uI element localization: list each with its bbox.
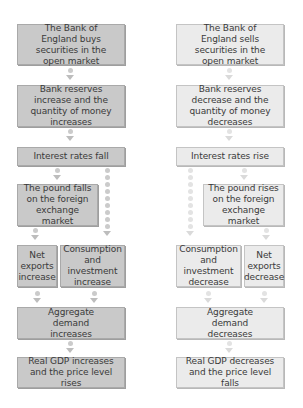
arrow-down-icon [240, 168, 248, 180]
box-consumption-investment-increase: Consumption and investment increase [60, 245, 125, 287]
arrow-down-icon [31, 228, 39, 240]
box-label: Interest rates rise [191, 151, 269, 162]
box-buy-securities: The Bank of England buys securities in t… [17, 24, 125, 65]
box-label: Net exports decrease [243, 250, 285, 283]
box-reserves-increase: Bank reserves increase and the quantity … [17, 85, 125, 127]
arrow-down-icon [90, 291, 98, 303]
arrow-down-icon [66, 341, 74, 353]
dotted-connector-icon [103, 168, 111, 236]
box-label: Aggregate demand decreases [177, 307, 283, 340]
box-consumption-investment-decrease: Consumption and investment decrease [176, 245, 241, 287]
box-label: Bank reserves increase and the quantity … [18, 84, 124, 128]
box-label: Interest rates fall [33, 151, 108, 162]
box-label: Real GDP increases and the price level r… [18, 356, 124, 389]
box-reserves-decrease: Bank reserves decrease and the quantity … [176, 85, 284, 127]
box-label: The Bank of England sells securities in … [177, 23, 283, 67]
arrow-down-icon [262, 228, 270, 240]
box-label: Bank reserves decrease and the quantity … [177, 84, 283, 128]
dotted-connector-icon [186, 168, 194, 236]
box-interest-rates-rise: Interest rates rise [176, 147, 284, 166]
arrow-down-icon [66, 129, 74, 141]
box-net-exports-decrease: Net exports decrease [244, 245, 284, 287]
arrow-down-icon [204, 291, 212, 303]
arrow-down-icon [66, 68, 74, 80]
box-label: Real GDP decreases and the price level f… [177, 356, 283, 389]
arrow-down-icon [225, 129, 233, 141]
box-net-exports-increase: Net exports increase [17, 245, 57, 287]
box-label: The pound falls on the foreign exchange … [18, 183, 97, 227]
arrow-down-icon [225, 68, 233, 80]
box-label: The Bank of England buys securities in t… [18, 23, 124, 67]
box-label: The pound rises on the foreign exchange … [204, 183, 283, 227]
arrow-down-icon [53, 168, 61, 180]
box-real-gdp-increases: Real GDP increases and the price level r… [17, 357, 125, 388]
box-label: Consumption and investment increase [61, 244, 124, 288]
arrow-down-icon [260, 291, 268, 303]
box-aggregate-demand-increases: Aggregate demand increases [17, 307, 125, 339]
box-pound-rises: The pound rises on the foreign exchange … [203, 184, 284, 226]
arrow-down-icon [33, 291, 41, 303]
box-pound-falls: The pound falls on the foreign exchange … [17, 184, 98, 226]
box-aggregate-demand-decreases: Aggregate demand decreases [176, 307, 284, 339]
box-real-gdp-decreases: Real GDP decreases and the price level f… [176, 357, 284, 388]
box-label: Consumption and investment decrease [177, 244, 240, 288]
box-label: Net exports increase [16, 250, 57, 283]
box-label: Aggregate demand increases [18, 307, 124, 340]
box-sell-securities: The Bank of England sells securities in … [176, 24, 284, 65]
arrow-down-icon [225, 341, 233, 353]
box-interest-rates-fall: Interest rates fall [17, 147, 125, 166]
